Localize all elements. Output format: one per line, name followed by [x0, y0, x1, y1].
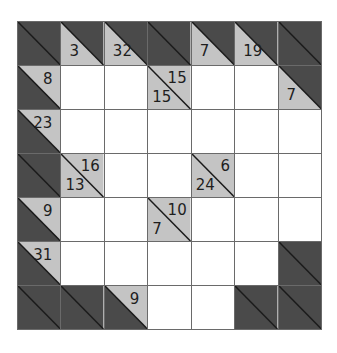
clue-cell: 107: [148, 198, 191, 242]
across-clue: 16: [81, 159, 100, 174]
clue-diagonal-icon: [18, 66, 60, 109]
down-clue: 7: [152, 222, 162, 237]
block-cell: [148, 22, 191, 66]
block-icon: [279, 22, 321, 65]
clue-diagonal-icon: [105, 286, 147, 329]
block-icon: [18, 22, 60, 65]
block-cell: [279, 242, 322, 286]
entry-cell[interactable]: [148, 286, 191, 330]
down-clue: 7: [200, 44, 210, 59]
block-icon: [279, 242, 321, 285]
entry-cell[interactable]: [235, 110, 278, 154]
across-clue: 6: [221, 159, 231, 174]
block-icon: [18, 154, 60, 197]
entry-cell[interactable]: [235, 198, 278, 242]
across-clue: 8: [43, 72, 53, 87]
entry-cell[interactable]: [105, 66, 148, 110]
clue-cell: 31: [18, 242, 61, 286]
down-clue: 13: [65, 178, 84, 193]
clue-diagonal-icon: [61, 22, 103, 65]
block-cell: [18, 286, 61, 330]
entry-cell[interactable]: [235, 154, 278, 198]
entry-cell[interactable]: [148, 242, 191, 286]
entry-cell[interactable]: [192, 110, 235, 154]
block-icon: [148, 22, 190, 65]
clue-cell: 19: [235, 22, 278, 66]
block-cell: [279, 286, 322, 330]
clue-cell: 9: [18, 198, 61, 242]
entry-cell[interactable]: [105, 242, 148, 286]
entry-cell[interactable]: [192, 66, 235, 110]
across-clue: 31: [33, 248, 52, 263]
entry-cell[interactable]: [61, 110, 104, 154]
clue-diagonal-icon: [192, 22, 234, 65]
clue-cell: 23: [18, 110, 61, 154]
clue-cell: 8: [18, 66, 61, 110]
block-cell: [279, 22, 322, 66]
entry-cell[interactable]: [148, 110, 191, 154]
clue-cell: 32: [105, 22, 148, 66]
block-icon: [61, 286, 103, 329]
entry-cell[interactable]: [61, 242, 104, 286]
clue-diagonal-icon: [279, 66, 321, 109]
entry-cell[interactable]: [148, 154, 191, 198]
across-clue: 9: [130, 292, 140, 307]
down-clue: 19: [243, 44, 262, 59]
entry-cell[interactable]: [235, 242, 278, 286]
down-clue: 7: [287, 88, 297, 103]
block-cell: [61, 286, 104, 330]
down-clue: 15: [152, 90, 171, 105]
entry-cell[interactable]: [192, 242, 235, 286]
entry-cell[interactable]: [235, 66, 278, 110]
clue-cell: 1515: [148, 66, 191, 110]
block-cell: [18, 154, 61, 198]
entry-cell[interactable]: [192, 198, 235, 242]
clue-cell: 3: [61, 22, 104, 66]
block-cell: [18, 22, 61, 66]
block-icon: [235, 286, 277, 329]
entry-cell[interactable]: [279, 154, 322, 198]
down-clue: 32: [113, 44, 132, 59]
down-clue: 24: [196, 178, 215, 193]
across-clue: 15: [168, 71, 187, 86]
across-clue: 10: [168, 203, 187, 218]
entry-cell[interactable]: [279, 198, 322, 242]
entry-cell[interactable]: [192, 286, 235, 330]
block-icon: [18, 286, 60, 329]
entry-cell[interactable]: [105, 154, 148, 198]
across-clue: 9: [43, 204, 53, 219]
kakuro-board: 3327198151572316136249107319: [17, 21, 322, 330]
down-clue: 3: [69, 44, 79, 59]
entry-cell[interactable]: [61, 66, 104, 110]
entry-cell[interactable]: [279, 110, 322, 154]
clue-cell: 7: [192, 22, 235, 66]
clue-cell: 9: [105, 286, 148, 330]
clue-cell: 624: [192, 154, 235, 198]
block-cell: [235, 286, 278, 330]
clue-diagonal-icon: [18, 198, 60, 241]
clue-cell: 1613: [61, 154, 104, 198]
across-clue: 23: [33, 116, 52, 131]
entry-cell[interactable]: [105, 110, 148, 154]
clue-cell: 7: [279, 66, 322, 110]
entry-cell[interactable]: [61, 198, 104, 242]
block-icon: [279, 286, 321, 329]
entry-cell[interactable]: [105, 198, 148, 242]
